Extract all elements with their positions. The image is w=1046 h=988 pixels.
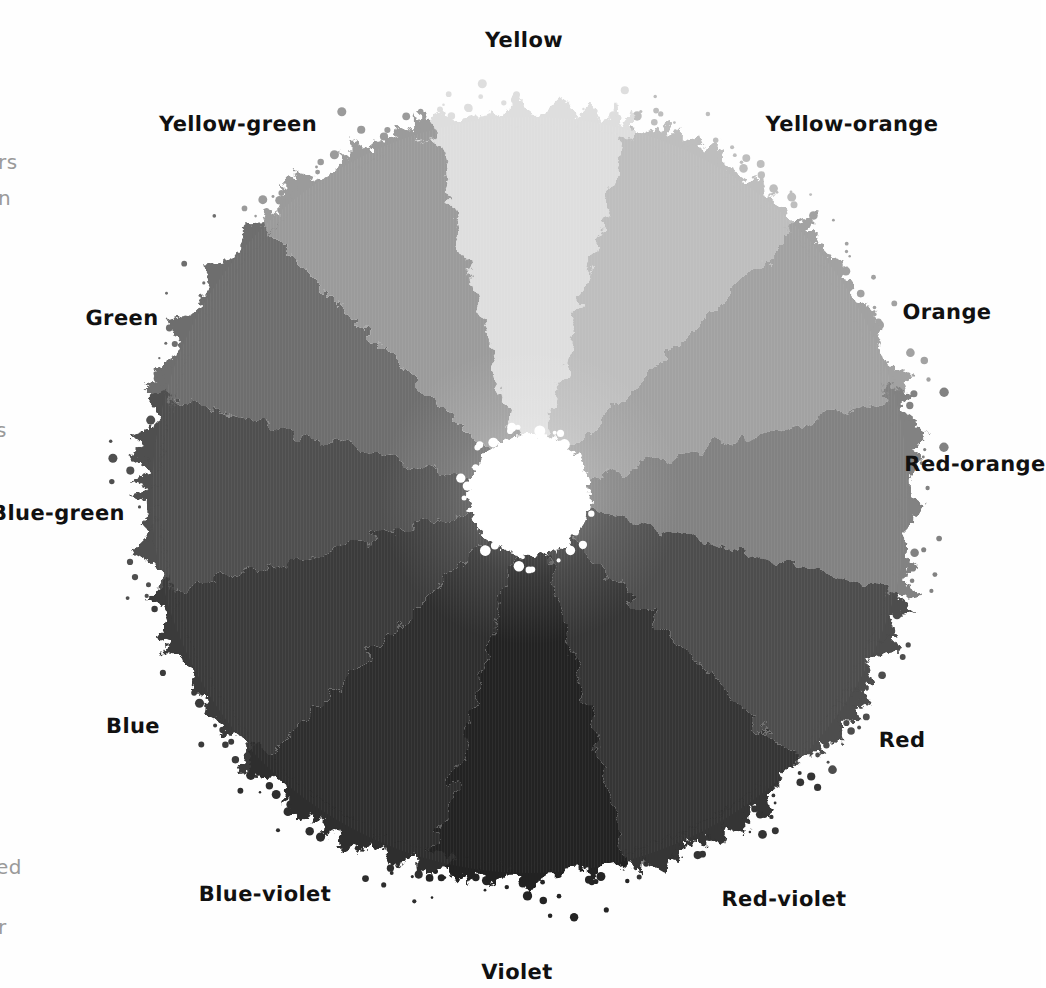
center-hole-fleck <box>507 423 516 432</box>
splatter-dot <box>548 914 553 919</box>
splatter-dot <box>749 831 752 834</box>
splatter-dot <box>891 301 897 307</box>
splatter-dot <box>330 150 339 159</box>
splatter-dot <box>259 791 261 793</box>
wheel-label-red-violet: Red-violet <box>722 887 847 911</box>
wheel-label-violet: Violet <box>481 960 552 984</box>
splatter-dot <box>442 104 445 107</box>
splatter-dot <box>845 242 849 246</box>
splatter-dot <box>847 727 855 735</box>
splatter-dot <box>843 720 849 726</box>
splatter-dot <box>923 448 926 451</box>
center-hole-fleck <box>521 555 525 559</box>
splatter-dot <box>127 559 133 565</box>
splatter-dot <box>651 119 658 126</box>
splatter-dot <box>384 127 390 133</box>
splatter-dot <box>317 159 324 166</box>
splatter-dot <box>776 191 779 194</box>
splatter-dot <box>242 206 248 212</box>
splatter-dot <box>126 596 130 600</box>
splatter-dot <box>431 896 434 899</box>
splatter-dot <box>632 111 641 120</box>
wheel-label-green: Green <box>85 306 158 330</box>
splatter-dot <box>740 161 744 165</box>
splatter-dot <box>582 108 584 110</box>
text-fragment-frag-rs: rs <box>0 150 18 174</box>
splatter-dot <box>109 439 112 442</box>
splatter-dot <box>505 885 509 889</box>
splatter-dot <box>910 390 917 397</box>
wheel-label-orange: Orange <box>902 300 991 324</box>
splatter-dot <box>798 771 802 775</box>
splatter-dot <box>742 154 750 162</box>
splatter-dot <box>160 670 166 676</box>
splatter-dot <box>276 828 280 832</box>
splatter-dot <box>921 547 926 552</box>
center-hole-fleck <box>480 545 491 556</box>
splatter-dot <box>791 201 798 208</box>
splatter-dot <box>237 788 243 794</box>
wheel-label-red: Red <box>879 728 926 752</box>
center-hole-fleck <box>559 439 570 450</box>
splatter-dot <box>198 742 204 748</box>
splatter-dot <box>845 250 848 253</box>
splatter-dot <box>165 292 168 295</box>
splatter-dot <box>478 79 487 88</box>
splatter-dot <box>939 443 948 452</box>
splatter-dot <box>501 100 506 105</box>
splatter-dot <box>787 193 796 202</box>
splatter-dot <box>857 726 861 730</box>
splatter-dot <box>146 416 155 425</box>
splatter-dot <box>213 723 217 727</box>
splatter-dot <box>381 882 386 887</box>
splatter-dot <box>807 772 815 780</box>
splatter-dot <box>232 756 239 763</box>
splatter-dot <box>438 874 445 881</box>
splatter-dot <box>906 642 911 647</box>
splatter-dot <box>921 357 928 364</box>
splatter-dot <box>910 548 919 557</box>
splatter-dot <box>540 897 547 904</box>
center-hole-fleck <box>456 474 465 483</box>
splatter-dot <box>769 815 773 819</box>
center-hole-fleck <box>514 561 525 572</box>
splatter-dot <box>809 193 812 196</box>
splatter-dot <box>145 594 149 598</box>
center-hole-fleck <box>553 431 557 435</box>
splatter-dot <box>848 255 851 258</box>
splatter-dot <box>739 164 748 173</box>
splatter-dot <box>910 578 915 583</box>
splatter-dot <box>254 215 257 218</box>
splatter-dot <box>390 871 394 875</box>
splatter-dot <box>202 281 205 284</box>
splatter-dot <box>484 889 487 892</box>
splatter-dot <box>733 153 737 157</box>
splatter-dot <box>774 802 777 805</box>
splatter-dot <box>181 261 187 267</box>
splatter-dot <box>315 170 320 175</box>
center-hole-fleck <box>573 529 579 535</box>
splatter-dot <box>814 784 821 791</box>
splatter-dot <box>585 876 593 884</box>
splatter-dot <box>266 782 273 789</box>
splatter-dot <box>151 606 157 612</box>
splatter-dot <box>936 536 942 542</box>
center-hole-fleck <box>472 464 478 470</box>
text-fragment-frag-r: r <box>0 915 7 939</box>
splatter-dot <box>315 166 318 169</box>
splatter-dot <box>402 112 410 120</box>
center-hole-shape <box>469 434 591 556</box>
splatter-dot <box>478 94 483 99</box>
splatter-dot <box>658 111 663 116</box>
splatter-dot <box>757 160 765 168</box>
splatter-dot <box>172 341 178 347</box>
splatter-dot <box>900 654 906 660</box>
splatter-dot <box>653 95 656 98</box>
wheel-label-blue: Blue <box>106 714 160 738</box>
wheel-label-blue-violet: Blue-violet <box>199 882 331 906</box>
center-hole-fleck <box>579 541 587 549</box>
splatter-dot <box>412 899 416 903</box>
splatter-dot <box>146 582 151 587</box>
